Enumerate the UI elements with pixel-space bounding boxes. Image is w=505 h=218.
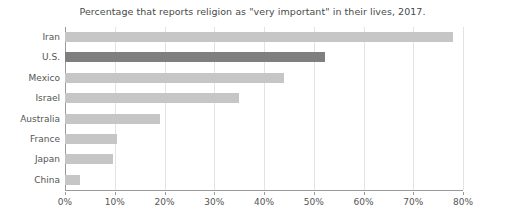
y-axis-label-china: China xyxy=(0,170,60,190)
bar-iran[interactable] xyxy=(65,32,453,42)
x-tick-mark xyxy=(413,192,414,195)
y-axis-label-australia: Australia xyxy=(0,109,60,129)
bar-row xyxy=(65,149,463,169)
x-tick-label-20pct: 20% xyxy=(154,197,174,207)
y-axis-label-japan: Japan xyxy=(0,149,60,169)
bar-row xyxy=(65,47,463,67)
x-tick-mark xyxy=(214,192,215,195)
x-tick-label-60pct: 60% xyxy=(353,197,373,207)
x-tick-label-0pct: 0% xyxy=(58,197,72,207)
bar-australia[interactable] xyxy=(65,114,160,124)
x-tick-label-40pct: 40% xyxy=(254,197,274,207)
gridline-80% xyxy=(463,27,464,190)
x-tick-label-50pct: 50% xyxy=(304,197,324,207)
bar-israel[interactable] xyxy=(65,93,239,103)
chart-title: Percentage that reports religion as "ver… xyxy=(0,6,505,17)
x-tick-mark xyxy=(165,192,166,195)
bar-row xyxy=(65,68,463,88)
bar-u-s[interactable] xyxy=(65,52,325,62)
x-tick-mark xyxy=(314,192,315,195)
y-axis-label-iran: Iran xyxy=(0,27,60,47)
bar-row xyxy=(65,27,463,47)
x-tick-mark xyxy=(364,192,365,195)
bar-row xyxy=(65,88,463,108)
y-axis-label-france: France xyxy=(0,129,60,149)
bar-japan[interactable] xyxy=(65,154,113,164)
x-tick-label-10pct: 10% xyxy=(105,197,125,207)
bar-france[interactable] xyxy=(65,134,117,144)
x-tick-mark xyxy=(264,192,265,195)
y-axis-label-mexico: Mexico xyxy=(0,68,60,88)
x-tick-label-30pct: 30% xyxy=(204,197,224,207)
x-tick-label-70pct: 70% xyxy=(403,197,423,207)
x-tick-mark xyxy=(463,192,464,195)
x-tick-label-80pct: 80% xyxy=(453,197,473,207)
bar-chart: Percentage that reports religion as "ver… xyxy=(0,0,505,218)
x-tick-mark xyxy=(115,192,116,195)
y-axis-labels: IranU.S.MexicoIsraelAustraliaFranceJapan… xyxy=(0,27,60,190)
y-axis-label-u-s: U.S. xyxy=(0,47,60,67)
bar-row xyxy=(65,170,463,190)
bar-china[interactable] xyxy=(65,175,80,185)
x-axis-line xyxy=(65,190,463,191)
y-axis-label-israel: Israel xyxy=(0,88,60,108)
x-tick-mark xyxy=(65,192,66,195)
bar-row xyxy=(65,129,463,149)
plot-area xyxy=(65,27,463,190)
bar-row xyxy=(65,109,463,129)
bar-mexico[interactable] xyxy=(65,73,284,83)
x-axis-ticks: 0%10%20%30%40%50%60%70%80% xyxy=(0,192,505,212)
